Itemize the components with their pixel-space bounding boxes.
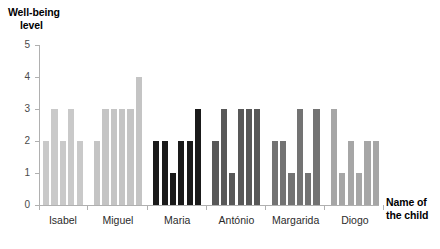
bar	[119, 109, 125, 205]
bar	[221, 109, 227, 205]
bar	[373, 141, 379, 205]
bar	[305, 173, 311, 205]
bar	[77, 141, 83, 205]
bar	[331, 109, 337, 205]
bar	[280, 141, 286, 205]
bar	[94, 141, 100, 205]
bar	[102, 109, 108, 205]
bars-layer	[0, 0, 440, 249]
bar	[60, 141, 66, 205]
bar	[43, 141, 49, 205]
bar	[127, 109, 133, 205]
bar	[153, 141, 159, 205]
bar	[356, 173, 362, 205]
bar	[339, 173, 345, 205]
bar	[111, 109, 117, 205]
bar	[364, 141, 370, 205]
bar	[51, 109, 57, 205]
bar	[246, 109, 252, 205]
bar	[136, 77, 142, 205]
bar	[187, 141, 193, 205]
well-being-bar-chart: Well-being level Name of the child 01234…	[0, 0, 440, 249]
bar	[313, 109, 319, 205]
bar	[254, 109, 260, 205]
bar	[229, 173, 235, 205]
bar	[212, 141, 218, 205]
bar	[68, 109, 74, 205]
bar	[195, 109, 201, 205]
bar	[238, 109, 244, 205]
bar	[288, 173, 294, 205]
bar	[178, 141, 184, 205]
bar	[162, 141, 168, 205]
bar	[348, 141, 354, 205]
bar	[170, 173, 176, 205]
x-axis-group-label: Diogo	[295, 214, 415, 227]
bar	[297, 109, 303, 205]
bar	[272, 141, 278, 205]
